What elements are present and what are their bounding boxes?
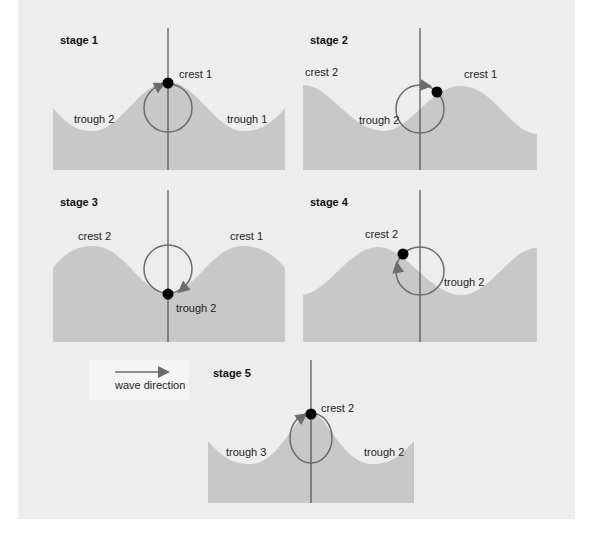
stage-4-title: stage 4	[310, 196, 349, 208]
stage-3-particle	[163, 289, 174, 300]
stage-1-water	[53, 82, 285, 170]
stage-1-label-crest: crest 1	[179, 68, 212, 80]
stage-2-label-left: crest 2	[305, 66, 338, 78]
stage-5-label-right: trough 2	[364, 446, 404, 458]
stage-1-particle	[163, 78, 174, 89]
legend: wave direction	[89, 360, 189, 400]
stage-3-label-trough: trough 2	[176, 302, 216, 314]
stage-5-label-left: trough 3	[226, 446, 266, 458]
stage-2: stage 2 crest 2 trough 2 crest 1	[303, 28, 537, 170]
wave-stages-diagram: stage 1 crest 1 trough 2 trough 1 stage …	[0, 0, 593, 535]
stage-5-title: stage 5	[213, 367, 251, 379]
stage-2-title: stage 2	[310, 34, 348, 46]
stage-1-title: stage 1	[60, 34, 98, 46]
stage-4-label-trough: trough 2	[444, 276, 484, 288]
stage-1-label-right: trough 1	[227, 113, 267, 125]
stage-2-particle	[432, 87, 443, 98]
legend-label: wave direction	[114, 379, 185, 391]
stage-5: stage 5 crest 2 trough 3 trough 2	[208, 360, 414, 503]
stage-5-particle	[306, 409, 317, 420]
stage-3-label-right: crest 1	[230, 230, 263, 242]
stage-3-title: stage 3	[60, 196, 98, 208]
stage-1: stage 1 crest 1 trough 2 trough 1	[53, 28, 285, 170]
stage-3-label-left: crest 2	[78, 230, 111, 242]
stage-5-label-crest: crest 2	[321, 402, 354, 414]
stage-2-label-right: crest 1	[464, 68, 497, 80]
stage-1-label-left: trough 2	[74, 113, 114, 125]
stage-4: stage 4 crest 2 trough 2	[303, 190, 537, 342]
stage-2-label-trough: trough 2	[359, 114, 399, 126]
stage-3: stage 3 crest 2 crest 1 trough 2	[53, 190, 285, 342]
stage-4-particle	[398, 249, 409, 260]
stage-4-label-crest: crest 2	[365, 228, 398, 240]
